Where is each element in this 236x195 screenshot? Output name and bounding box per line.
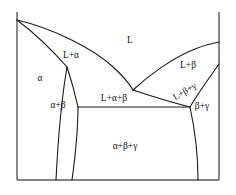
phase-diagram: L L+α α α+β L+α+β L+β L+β+γ β+γ α+β+γ	[0, 0, 236, 195]
phase-diagram-canvas: L L+α α α+β L+α+β L+β L+β+γ β+γ α+β+γ	[0, 0, 236, 195]
region-label-liquid-alpha-beta: L+α+β	[101, 93, 127, 103]
region-label-alpha-beta: α+β	[50, 100, 65, 110]
region-label-liquid-alpha: L+α	[63, 50, 79, 60]
region-label-alpha: α	[38, 73, 43, 83]
region-label-liquid-beta: L+β	[180, 60, 196, 70]
region-label-liquid: L	[127, 35, 133, 45]
region-label-alpha-beta-gamma: α+β+γ	[113, 141, 138, 151]
region-label-beta-gamma: β+γ	[195, 101, 209, 111]
